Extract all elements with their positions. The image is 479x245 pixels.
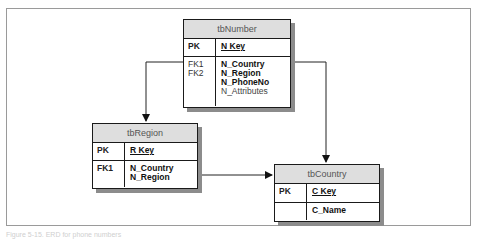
table-tbcountry: tbCountry PK C Key C_Name (274, 164, 380, 222)
link-number-to-region (146, 62, 183, 121)
pk-label: PK (275, 184, 307, 202)
table-tbregion: tbRegion PK R Key FK1 N_Country N_Region (92, 123, 198, 189)
fk-label: FK2 (188, 69, 215, 78)
table-title: tbNumber (184, 20, 290, 39)
field: N_Attributes (221, 87, 269, 96)
pk-label: PK (93, 143, 125, 160)
table-title: tbCountry (275, 165, 379, 184)
figure-caption: Figure 5-15. ERD for phone numbers (6, 231, 121, 238)
link-number-to-country (291, 62, 326, 162)
pk-field: R Key (130, 146, 154, 155)
fk-label: FK1 (97, 164, 124, 173)
field: N_Region (130, 173, 173, 182)
pk-field: N Key (221, 42, 245, 51)
table-tbnumber: tbNumber PK N Key FK1 FK2 N_Country N_Re… (183, 19, 291, 108)
table-title: tbRegion (93, 124, 197, 143)
pk-label: PK (184, 39, 216, 56)
pk-field: C Key (312, 187, 336, 196)
field: C_Name (312, 206, 346, 215)
